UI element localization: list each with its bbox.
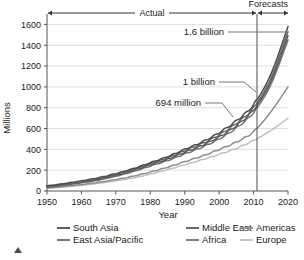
legend-label: East Asia/Pacific [73,234,143,245]
legend-label: Africa [202,234,227,245]
x-tick-label: 2010 [244,197,264,207]
chart-background [0,0,304,260]
x-axis-label: Year [158,209,177,220]
y-axis-label: Millions [1,102,12,134]
chart-container: 02004006008001000120014001600 1950196019… [0,0,304,260]
y-tick-label: 1200 [21,61,41,71]
forecasts-band-label: Forecasts [248,0,288,9]
x-tick-label: 1970 [106,197,126,207]
legend-label: Americas [256,222,296,233]
y-tick-label: 400 [26,145,41,155]
x-tick-label: 1990 [175,197,195,207]
actual-band-label: Actual [139,8,164,18]
y-tick-label: 1400 [21,41,41,51]
y-tick-label: 0 [36,186,41,196]
legend-label: South Asia [73,222,119,233]
x-tick-label: 1950 [37,197,57,207]
x-tick-label: 1980 [140,197,160,207]
x-tick-label: 2000 [209,197,229,207]
y-tick-label: 200 [26,166,41,176]
y-tick-label: 800 [26,103,41,113]
annotation-1-6-billion: 1.6 billion [184,26,224,37]
y-tick-label: 1000 [21,82,41,92]
x-tick-label: 1960 [71,197,91,207]
y-tick-label: 600 [26,124,41,134]
annotation-694-million: 694 million [156,97,201,108]
y-tick-label: 1600 [21,20,41,30]
annotation-1-billion: 1 billion [183,76,215,87]
x-tick-label: 2020 [278,197,298,207]
legend-label: Europe [256,234,287,245]
population-line-chart: 02004006008001000120014001600 1950196019… [0,0,304,260]
